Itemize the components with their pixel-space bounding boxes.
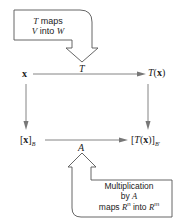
top-callout-line1: T maps [20, 16, 76, 26]
bottom-callout-text: Multiplication by A maps Rn into Rm [86, 182, 172, 212]
top-callout-text: T maps V into W [20, 16, 76, 36]
node-Tx: T(x) [148, 68, 165, 78]
bottom-callout-line3: maps Rn into Rm [86, 201, 172, 212]
left-arrow-head [24, 121, 29, 130]
bottom-callout-line2: by A [86, 192, 172, 202]
top-edge-label: T [79, 64, 85, 74]
top-arrow-head [137, 72, 146, 77]
node-xB: [x]B [20, 135, 35, 147]
bottom-arrow-head [119, 138, 128, 143]
top-callout-line2: V into W [20, 26, 76, 36]
node-x: x [22, 69, 27, 79]
bottom-edge-label: A [78, 143, 84, 153]
right-arrow-head [146, 121, 151, 130]
node-TxB: [T(x)]B′ [131, 135, 160, 147]
